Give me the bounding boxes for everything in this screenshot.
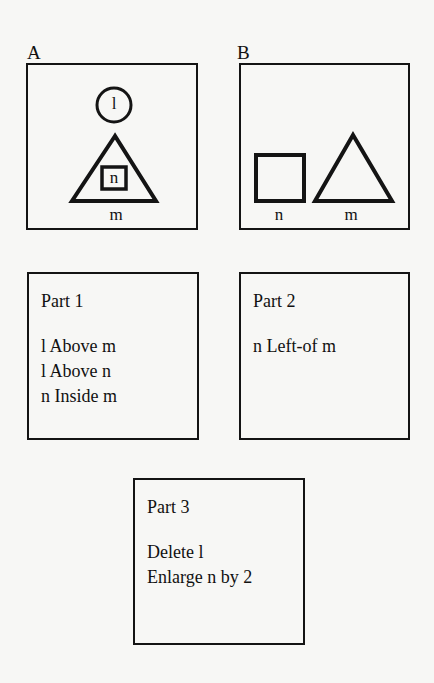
rule-line: Delete l <box>147 540 252 565</box>
part-2-box: Part 2 n Left-of m <box>239 272 410 440</box>
rule-line: n Inside m <box>41 384 117 409</box>
part-1-rules: l Above m l Above n n Inside m <box>41 334 117 409</box>
circle-l-label: l <box>112 95 117 112</box>
rule-line: l Above n <box>41 359 117 384</box>
square-n-label: n <box>275 206 284 223</box>
panel-b-shapes <box>241 65 412 232</box>
square-n-label: n <box>110 169 119 186</box>
part-1-box: Part 1 l Above m l Above n n Inside m <box>27 272 199 440</box>
panel-b: n m <box>239 63 410 230</box>
part-3-box: Part 3 Delete l Enlarge n by 2 <box>133 478 305 645</box>
triangle-m-label: m <box>109 206 122 223</box>
rule-line: Enlarge n by 2 <box>147 565 252 590</box>
triangle-m-label: m <box>344 206 357 223</box>
rule-line: n Left-of m <box>253 334 336 359</box>
triangle-m-shape <box>315 135 392 201</box>
panel-b-label: B <box>237 43 250 62</box>
panel-a-label: A <box>27 43 41 62</box>
rule-line: l Above m <box>41 334 117 359</box>
part-3-rules: Delete l Enlarge n by 2 <box>147 540 252 590</box>
part-1-title: Part 1 <box>41 292 84 310</box>
panel-a: l n m <box>26 63 198 230</box>
part-2-rules: n Left-of m <box>253 334 336 359</box>
part-2-title: Part 2 <box>253 292 296 310</box>
part-3-title: Part 3 <box>147 498 190 516</box>
square-n-shape <box>256 155 304 201</box>
